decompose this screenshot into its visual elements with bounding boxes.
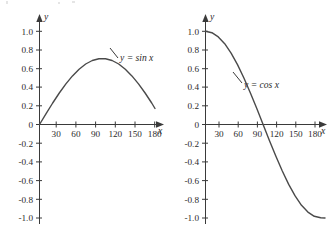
cosine-ytick-label: 0 — [194, 120, 199, 130]
sine-xtick-label: 90 — [91, 129, 101, 139]
cosine-x-axis-label: x — [320, 125, 326, 136]
sine-ytick-label: -0.6 — [18, 176, 33, 186]
cosine-ytick-label: -0.8 — [184, 195, 199, 205]
sine-chart-panel: 1.0 0.8 0.6 0.4 0.2 0 -0.2 -0.4 -0.6 -0.… — [0, 0, 166, 231]
sine-ytick-label: -1.0 — [18, 213, 33, 223]
cosine-xtick-label: 60 — [234, 129, 244, 139]
sine-ytick-label: 0.6 — [22, 64, 34, 74]
sine-ytick-label: -0.4 — [18, 157, 33, 167]
cosine-ytick-label: -1.0 — [184, 213, 199, 223]
sine-ytick-label: 0.2 — [22, 101, 34, 111]
sine-curve — [40, 59, 156, 125]
sine-curve-label: y = sin x — [119, 52, 154, 63]
sine-y-axis-label: y — [43, 11, 49, 22]
cosine-xtick-label: 150 — [289, 129, 303, 139]
cosine-ytick-label: -0.6 — [184, 176, 199, 186]
sine-ytick-label: -0.2 — [18, 139, 33, 149]
sine-label-leader — [110, 48, 118, 58]
cosine-axes — [202, 14, 327, 224]
sine-x-tick-labels: 30 60 90 120 150 180 — [52, 129, 162, 139]
trig-graphs-figure: 1.0 0.8 0.6 0.4 0.2 0 -0.2 -0.4 -0.6 -0.… — [0, 0, 332, 231]
cosine-y-axis-arrow — [202, 14, 208, 22]
sine-ytick-label: 0 — [28, 120, 33, 130]
cosine-xtick-label: 90 — [253, 129, 263, 139]
cosine-y-axis-label: y — [209, 11, 215, 22]
cosine-chart-svg: 1.0 0.8 0.6 0.4 0.2 0 -0.2 -0.4 -0.6 -0.… — [166, 0, 332, 231]
cosine-ytick-label: -0.2 — [184, 139, 199, 149]
cosine-ytick-label: -0.4 — [184, 157, 199, 167]
cosine-y-tick-labels: 1.0 0.8 0.6 0.4 0.2 0 -0.2 -0.4 -0.6 -0.… — [184, 27, 199, 224]
cosine-ytick-label: 0.8 — [188, 45, 200, 55]
cosine-ytick-label: 0.4 — [188, 82, 200, 92]
cosine-label-leader — [233, 72, 242, 83]
sine-ytick-label: 0.4 — [22, 82, 34, 92]
sine-chart-svg: 1.0 0.8 0.6 0.4 0.2 0 -0.2 -0.4 -0.6 -0.… — [0, 0, 166, 231]
sine-xtick-label: 150 — [128, 129, 142, 139]
sine-ytick-label: 1.0 — [22, 27, 34, 37]
sine-ytick-label: 0.8 — [22, 45, 34, 55]
sine-ytick-label: -0.8 — [18, 195, 33, 205]
cosine-ytick-label: 0.6 — [188, 64, 200, 74]
cosine-xtick-label: 120 — [270, 129, 284, 139]
cosine-ytick-label: 0.2 — [188, 101, 200, 111]
cosine-curve-label: y = cos x — [243, 79, 280, 90]
sine-xtick-label: 60 — [71, 129, 81, 139]
sine-xtick-label: 30 — [52, 129, 62, 139]
cosine-xtick-label: 30 — [214, 129, 224, 139]
cosine-ytick-label: 1.0 — [188, 27, 200, 37]
sine-y-tick-labels: 1.0 0.8 0.6 0.4 0.2 0 -0.2 -0.4 -0.6 -0.… — [18, 27, 33, 224]
sine-x-axis-label: x — [157, 125, 163, 136]
cosine-chart-panel: 1.0 0.8 0.6 0.4 0.2 0 -0.2 -0.4 -0.6 -0.… — [166, 0, 332, 231]
sine-y-axis-arrow — [36, 14, 42, 22]
sine-axes — [36, 14, 164, 224]
sine-xtick-label: 120 — [108, 129, 122, 139]
